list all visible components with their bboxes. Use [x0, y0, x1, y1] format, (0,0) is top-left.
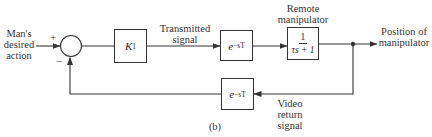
transmitted-label-line: Transmitted: [155, 23, 215, 34]
gain-block-k1: K1: [114, 29, 147, 63]
summing-junction: [61, 36, 82, 57]
video-label-line: return: [270, 109, 310, 120]
plus-sign: +: [50, 32, 56, 43]
output-label: Position of manipulator: [376, 26, 432, 48]
delay-exponent: −sT: [233, 41, 245, 50]
tf-denominator: τs + 1: [291, 44, 314, 55]
block-diagram-wires: [0, 0, 432, 137]
video-return-label: Video return signal: [270, 98, 310, 131]
forward-delay-block: e−sT: [220, 30, 253, 61]
transmitted-signal-label: Transmitted signal: [155, 23, 215, 45]
input-label-line: Man's: [2, 28, 36, 39]
remote-manipulator-label: Remote manipulator: [270, 3, 336, 25]
feedback-delay-block: e−sT: [221, 78, 254, 110]
input-label-line: desired: [2, 39, 36, 50]
transmitted-label-line: signal: [155, 34, 215, 45]
remote-label-line: manipulator: [270, 14, 336, 25]
video-label-line: Video: [270, 98, 310, 109]
gain-symbol: K: [125, 40, 132, 52]
tf-numerator: 1: [299, 32, 308, 44]
remote-label-line: Remote: [270, 3, 336, 14]
branch-point: [351, 42, 355, 46]
output-label-line: Position of: [376, 26, 432, 37]
figure-caption: (b): [203, 121, 227, 132]
input-label-line: action: [2, 50, 36, 61]
manipulator-block: 1 τs + 1: [287, 27, 319, 60]
video-label-line: signal: [270, 120, 310, 131]
input-label: Man's desired action: [2, 28, 36, 61]
minus-sign: −: [56, 56, 62, 67]
gain-subscript: 1: [132, 42, 136, 51]
feedback-delay-exponent: −sT: [234, 90, 246, 99]
transfer-function: 1 τs + 1: [291, 32, 314, 55]
output-label-line: manipulator: [376, 37, 432, 48]
